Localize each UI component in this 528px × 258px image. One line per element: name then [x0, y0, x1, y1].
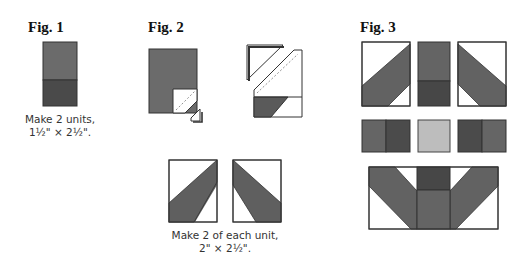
fig1-caption: Make 2 units, 1½" × 2½".: [10, 113, 110, 139]
fig3-row1-middle: [418, 42, 450, 106]
fig1-caption-line2: 1½" × 2½".: [10, 126, 110, 139]
fig2-left-diagonal-unit: [169, 160, 217, 222]
fig2-right-diagonal-unit: [233, 160, 281, 222]
fig3-row2-middle: [418, 120, 450, 152]
fig2-caption-line1: Make 2 of each unit,: [160, 229, 290, 242]
fig3-row1-left: [362, 42, 410, 106]
fig3-row2-right: [458, 120, 506, 152]
fig1-caption-line1: Make 2 units,: [10, 113, 110, 126]
fig2-caption-line2: 2" × 2½".: [160, 242, 290, 255]
fig2-trimmed-unit: [247, 45, 302, 117]
fig1-unit: [43, 42, 77, 106]
fig3-row2-left: [362, 120, 410, 152]
fig2-stitch-corner-unit: [149, 49, 202, 122]
fig3-row1-right: [458, 42, 506, 106]
fig3-assembled-block: [369, 167, 498, 229]
fig2-caption: Make 2 of each unit, 2" × 2½".: [160, 229, 290, 255]
